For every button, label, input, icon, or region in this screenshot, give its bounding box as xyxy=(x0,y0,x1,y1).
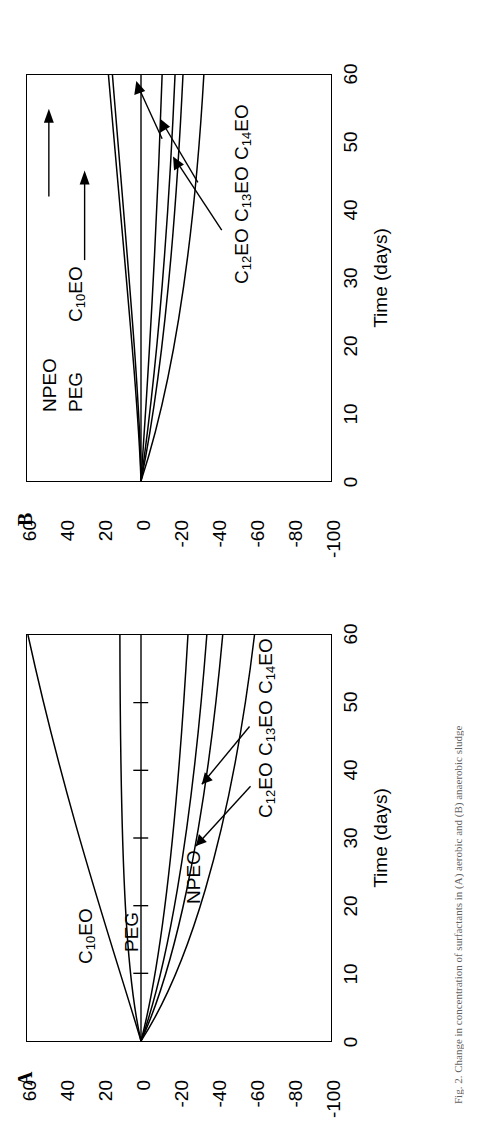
panel-a-ytick-40: 40 xyxy=(58,1080,77,1140)
panel-a-label-c13eo: C13EO xyxy=(256,700,275,756)
panel-a-label-peg: PEG xyxy=(122,912,141,952)
panel-a-ytick-0: 0 xyxy=(134,1080,153,1140)
panel-b-xtick-40: 40 xyxy=(340,187,362,233)
panel-a-plot-area xyxy=(26,634,332,1042)
panel-a-xtick-10: 10 xyxy=(340,951,362,997)
panel-b-curve-c10eo xyxy=(108,75,141,481)
panel-a-xtick-60: 60 xyxy=(340,611,362,657)
figure-caption: Fig. 2. Change in concentration of surfa… xyxy=(452,34,464,1104)
panel-b-xtick-0: 0 xyxy=(340,459,362,505)
panel-b-arrow-peg xyxy=(44,109,54,197)
panel-a-label-c12eo: C12EO xyxy=(256,762,275,818)
panel-b-curve-c13eo xyxy=(141,75,183,481)
panel-a-ytick--20: -20 xyxy=(172,1080,191,1140)
panel-a-ytick-20: 20 xyxy=(96,1080,115,1140)
panel-a-label-npeo: NPEO xyxy=(184,850,203,904)
panel-b-ytick-40: 40 xyxy=(58,520,77,580)
panel-b-ytick-0: 0 xyxy=(134,520,153,580)
panel-a-ytick--100: -100 xyxy=(324,1080,343,1140)
panel-b-ytick--40: -40 xyxy=(210,520,229,580)
panel-b-ytick--20: -20 xyxy=(172,520,191,580)
panel-a-xtick-0: 0 xyxy=(340,1019,362,1065)
panel-b-xtick-10: 10 xyxy=(340,391,362,437)
panel-b-ytick--60: -60 xyxy=(248,520,267,580)
panel-a-plot-svg xyxy=(27,635,331,1041)
panel-b-xtick-60: 60 xyxy=(340,51,362,97)
panel-b-label-peg: PEG xyxy=(66,372,85,412)
panel-b-arrow-c10eo xyxy=(80,171,90,261)
panel-a-ytick--60: -60 xyxy=(248,1080,267,1140)
panel-b-label-npeo: NPEO xyxy=(40,358,59,412)
panel-b-label-c10eo: C10EO xyxy=(66,266,85,322)
panel-a-xtick-30: 30 xyxy=(340,815,362,861)
panel-b-label-c14eo: C14EO xyxy=(232,104,251,160)
panel-b-ytick--100: -100 xyxy=(324,520,343,580)
panel-a-xtick-50: 50 xyxy=(340,679,362,725)
figure-page: A Change in concentration (%) 60 40 20 0… xyxy=(0,0,488,1144)
panel-b-label-c13eo: C13EO xyxy=(232,166,251,222)
rotated-figure-stage: A Change in concentration (%) 60 40 20 0… xyxy=(0,0,488,1144)
panel-a-x-axis-label: Time (days) xyxy=(370,634,392,1042)
panel-a-curve-c10eo xyxy=(28,635,141,1041)
panel-a-ytick--40: -40 xyxy=(210,1080,229,1140)
panel-b-xtick-50: 50 xyxy=(340,119,362,165)
panel-b-xtick-20: 20 xyxy=(340,323,362,369)
panel-b-ytick-60: 60 xyxy=(20,520,39,580)
panel-b-x-axis-label: Time (days) xyxy=(370,74,392,482)
panel-a-label-c10eo: C10EO xyxy=(76,908,95,964)
panel-a-curve-c14eo xyxy=(141,635,255,1041)
panel-b-ytick--80: -80 xyxy=(286,520,305,580)
panel-b-ytick-20: 20 xyxy=(96,520,115,580)
panel-a-ytick--80: -80 xyxy=(286,1080,305,1140)
panel-b-arrow-c14eo xyxy=(134,81,162,139)
panel-b-label-c12eo: C12EO xyxy=(232,228,251,284)
panel-a: A Change in concentration (%) 60 40 20 0… xyxy=(18,604,418,1104)
panel-a-xtick-40: 40 xyxy=(340,747,362,793)
panel-a-xtick-20: 20 xyxy=(340,883,362,929)
panel-b-xtick-30: 30 xyxy=(340,255,362,301)
figure-canvas: A Change in concentration (%) 60 40 20 0… xyxy=(0,0,488,1144)
panel-a-label-c14eo: C14EO xyxy=(256,638,275,694)
panel-a-ytick-60: 60 xyxy=(20,1080,39,1140)
panel-b: B 60 40 20 0 -20 -40 -60 -80 -100 xyxy=(18,44,418,544)
panel-b-arrow-c13eo xyxy=(160,119,198,183)
